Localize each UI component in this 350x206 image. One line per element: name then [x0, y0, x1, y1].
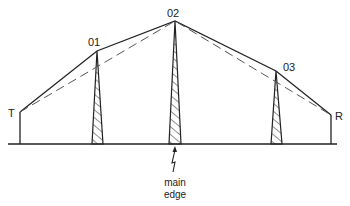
- diffraction-diagram: T R 01 02 03 main edge: [0, 0, 350, 206]
- label-transmitter: T: [8, 107, 15, 119]
- obstacle-01: [92, 51, 103, 144]
- arrow-icon: [172, 146, 177, 172]
- label-obstacle-02: 02: [167, 7, 179, 19]
- obstacle-02: [169, 21, 181, 144]
- annotation-line1: main: [164, 177, 186, 188]
- annotation-line2: edge: [164, 189, 187, 200]
- label-receiver: R: [335, 110, 343, 122]
- label-obstacle-03: 03: [283, 61, 295, 73]
- label-obstacle-01: 01: [88, 36, 100, 48]
